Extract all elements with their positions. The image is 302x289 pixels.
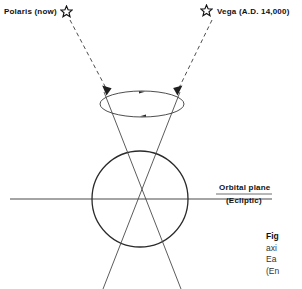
sightline-vega — [178, 20, 212, 90]
caption-line-3: Ea — [266, 254, 302, 266]
precession-ellipse — [100, 91, 184, 117]
precession-diagram — [0, 0, 302, 289]
star-outline-icon-vega — [200, 4, 213, 17]
star-outline-icon-polaris — [60, 5, 73, 18]
caption-line-2: axi — [266, 243, 302, 255]
figure-caption: Fig axi Ea (En — [266, 231, 302, 277]
sightline-vega-arrowhead — [173, 85, 182, 95]
polaris-label: Polaris (now) — [4, 7, 57, 17]
precession-direction-arrow-bottom — [140, 114, 146, 116]
caption-line-1: Fig — [266, 231, 302, 243]
caption-line-4: (En — [266, 266, 302, 278]
sightline-polaris — [70, 20, 107, 90]
figure-root: Polaris (now) Vega (A.D. 14,000) Orbital… — [0, 0, 302, 289]
ecliptic-label: (Ecliptic) — [226, 196, 262, 206]
axis-line-vega — [103, 92, 180, 289]
sightline-polaris-arrowhead — [102, 86, 111, 96]
vega-label: Vega (A.D. 14,000) — [217, 7, 290, 17]
axis-line-polaris — [104, 92, 181, 289]
precession-direction-arrow-top — [139, 91, 145, 93]
orbital-plane-label: Orbital plane — [219, 183, 271, 193]
